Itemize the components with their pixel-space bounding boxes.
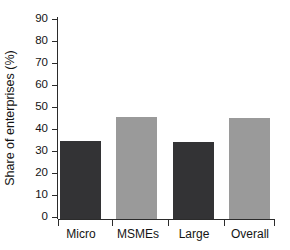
chart-canvas: Share of enterprises (%) 90 80 70 60 50 … <box>0 0 290 250</box>
y-tick-label: 0 <box>42 210 48 222</box>
bar-msmes <box>116 117 157 219</box>
y-tick-label: 90 <box>35 12 48 24</box>
bar-micro <box>60 141 101 219</box>
y-tick-label: 10 <box>35 188 48 200</box>
category-label-large: Large <box>179 227 210 241</box>
y-tick-label: 20 <box>35 166 48 178</box>
y-tick-label: 50 <box>35 100 48 112</box>
category-label-overall: Overall <box>231 227 269 241</box>
y-tick-label: 80 <box>35 34 48 46</box>
y-tick-label: 70 <box>35 56 48 68</box>
bar-overall <box>229 118 270 219</box>
y-tick-label: 40 <box>35 122 48 134</box>
y-tick-label: 60 <box>35 78 48 90</box>
category-label-msmes: MSMEs <box>117 227 159 241</box>
y-tick-label: 30 <box>35 144 48 156</box>
bar-large <box>173 142 214 219</box>
y-axis-title: Share of enterprises (%) <box>3 50 17 185</box>
bar-chart-figure: Share of enterprises (%) 90 80 70 60 50 … <box>0 0 290 250</box>
category-label-micro: Micro <box>66 227 96 241</box>
